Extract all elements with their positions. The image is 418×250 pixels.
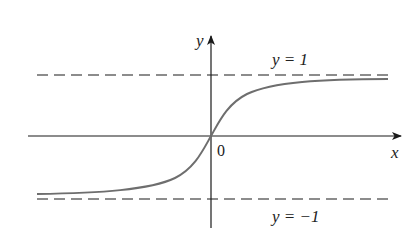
upper-asymptote-label: y = 1 (270, 50, 308, 69)
lower-asymptote-label: y = −1 (270, 207, 320, 226)
sigmoid-graph: y x 0 y = 1 y = −1 (0, 0, 418, 250)
origin-label: 0 (217, 142, 225, 159)
x-axis-label: x (390, 143, 399, 162)
y-axis-label: y (194, 31, 204, 50)
